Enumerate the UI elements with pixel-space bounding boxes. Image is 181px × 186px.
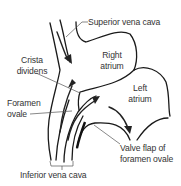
label-right-atrium-line1: Right xyxy=(92,50,132,61)
leader-valve xyxy=(94,125,120,144)
ivc-inner-wall-1 xyxy=(56,100,69,160)
valve-flap-wave xyxy=(137,118,168,140)
label-right-atrium-line2: atrium xyxy=(92,61,132,72)
label-valve-flap: Valve flap of foramen ovale xyxy=(120,143,173,164)
left-atrium-arrowhead-icon xyxy=(124,126,132,134)
ivc-inner-wall-2 xyxy=(64,96,96,162)
ivc-bracket xyxy=(50,161,73,170)
label-left-atrium: Left atrium xyxy=(125,83,155,104)
label-left-atrium-line1: Left xyxy=(125,83,155,94)
label-crista-dividens: Crista dividens xyxy=(12,55,52,76)
label-left-atrium-line2: atrium xyxy=(125,94,155,105)
label-crista-line2: dividens xyxy=(12,66,52,77)
label-crista-line1: Crista xyxy=(12,55,52,66)
label-foramen-line2: ovale xyxy=(7,109,41,120)
label-foramen-line1: Foramen xyxy=(7,98,41,109)
label-inferior-vena-cava: Inferior vena cava xyxy=(20,170,87,181)
label-valve-line2: foramen ovale xyxy=(120,154,173,165)
label-valve-line1: Valve flap of xyxy=(120,143,173,154)
left-atrium-flow-arrow xyxy=(109,107,128,128)
label-right-atrium: Right atrium xyxy=(92,50,132,71)
label-foramen-ovale: Foramen ovale xyxy=(7,98,41,119)
label-superior-vena-cava: Superior vena cava xyxy=(88,17,160,28)
foramen-arrowhead-icon xyxy=(92,96,100,104)
